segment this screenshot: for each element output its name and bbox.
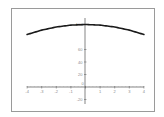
x-tick-label: 0 (81, 81, 84, 86)
y-tick-label: 20 (78, 72, 83, 77)
data-line (27, 25, 144, 35)
x-tick-label: -2 (55, 89, 59, 94)
y-tick-label: 40 (78, 60, 83, 65)
x-tick-label: 3 (128, 89, 131, 94)
x-tick-label: 1 (99, 89, 102, 94)
x-tick-label: 2 (114, 89, 117, 94)
x-tick-label: -3 (40, 89, 44, 94)
x-ticks: -4-3-2-101234 (25, 81, 145, 94)
x-tick-label: -1 (69, 89, 73, 94)
y-tick-label: -20 (77, 97, 84, 102)
x-tick-label: 4 (143, 89, 146, 94)
y-tick-label: 60 (78, 47, 83, 52)
chart-svg: -4-3-2-101234 100604020-20 (0, 0, 164, 117)
x-tick-label: -4 (25, 89, 29, 94)
